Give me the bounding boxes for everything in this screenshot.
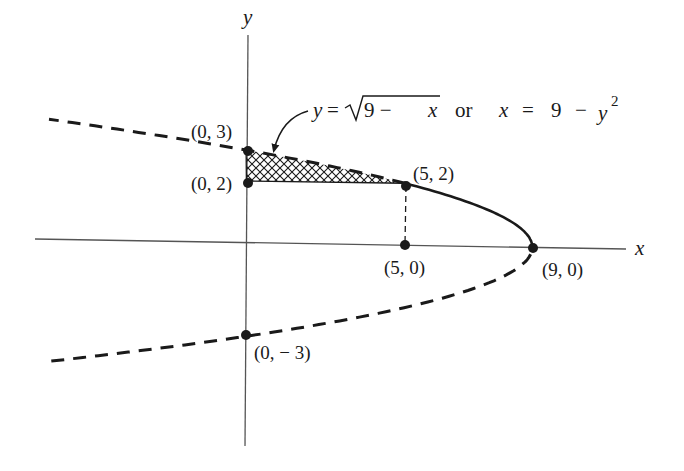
point-5-0 [400, 240, 410, 250]
eq-or: or [455, 98, 473, 122]
annotation-arrow [274, 111, 308, 150]
eq-sqrt-x: x [427, 98, 438, 122]
label-5-0: (5, 0) [384, 257, 425, 279]
eq-y: y [311, 98, 323, 122]
label-5-2: (5, 2) [413, 163, 454, 185]
point-0-3 [243, 146, 253, 156]
eq-y-squared: y [596, 101, 608, 125]
label-0-3: (0, 3) [191, 121, 232, 143]
eq-superscript-2: 2 [611, 93, 619, 109]
label-0-minus3: (0, − 3) [254, 342, 311, 364]
point-9-0 [528, 243, 538, 253]
curve-solid [405, 183, 532, 247]
eq-equals-1: = [327, 98, 339, 122]
eq-x: x [498, 98, 509, 122]
point-5-2 [401, 181, 411, 191]
point-0-2 [243, 178, 253, 188]
sqrt-sign [345, 96, 440, 120]
eq-nine: 9 [551, 98, 562, 122]
y-axis [245, 35, 248, 446]
equation-annotation: y = 9 − x or x = 9 − y 2 [311, 93, 619, 125]
dashed-vertical-x5 [405, 186, 406, 245]
label-0-2: (0, 2) [191, 173, 232, 195]
eq-sqrt-body: 9 − [364, 98, 392, 122]
y-axis-label: y [241, 5, 253, 29]
parabola-diagram: y x (0, 3) (0, 2) (5, 2) (5, 0) (9, 0) (… [0, 0, 684, 471]
x-axis-label: x [634, 236, 645, 260]
point-0-minus3 [241, 330, 251, 340]
eq-equals-2: = [522, 98, 534, 122]
label-9-0: (9, 0) [542, 259, 583, 281]
eq-minus: − [575, 98, 587, 122]
